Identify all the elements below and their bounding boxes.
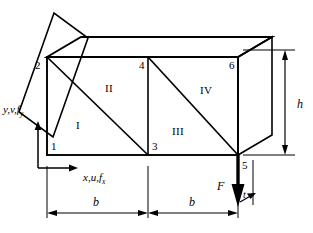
element-label-IV: IV	[200, 85, 212, 96]
node-label-5: 5	[242, 160, 248, 171]
dim-b-left-arrowhead-start	[47, 210, 57, 216]
node-label-3: 3	[152, 141, 158, 152]
dim-h-arrowhead-top	[282, 50, 288, 60]
dim-h-arrowhead-bottom	[282, 145, 288, 155]
node-label-6: 6	[229, 60, 235, 71]
dim-t-arrowhead	[247, 193, 256, 199]
x-axis-force-subscript: x	[102, 177, 105, 186]
dim-b-right-arrowhead-end	[228, 210, 238, 216]
element-label-I: I	[76, 120, 80, 131]
dim-b-left-arrowhead-end	[138, 210, 148, 216]
dimension-label-b-left: b	[93, 196, 99, 208]
node-label-1: 1	[51, 141, 57, 152]
figure-root: 2 4 6 1 3 5 I II III IV y,v,fy x,u,fx b …	[0, 0, 313, 233]
dimension-label-h: h	[297, 98, 303, 110]
y-axis-arrowhead	[35, 121, 42, 130]
diagram-canvas	[0, 0, 313, 233]
dim-b-right-arrowhead-start	[148, 210, 158, 216]
y-axis-label: y,v,fy	[3, 104, 23, 115]
mesh-diagonal-4-5	[148, 57, 238, 155]
x-axis-label: x,u,fx	[83, 172, 105, 183]
node-label-4: 4	[139, 60, 145, 71]
y-axis-force-subscript: y	[20, 109, 23, 118]
force-label-F: F	[217, 180, 224, 192]
plate-top-face	[47, 37, 272, 57]
x-axis-arrowhead	[69, 165, 78, 172]
node-label-2: 2	[35, 60, 41, 71]
x-axis-label-text: x,u,	[83, 171, 99, 183]
element-label-II: II	[105, 83, 113, 94]
mesh-diagonal-2-3	[47, 57, 148, 155]
dimension-label-b-right: b	[189, 196, 195, 208]
dimension-label-t: t	[243, 190, 246, 200]
y-axis-label-text: y,v,	[3, 103, 17, 115]
element-label-III: III	[172, 126, 184, 137]
